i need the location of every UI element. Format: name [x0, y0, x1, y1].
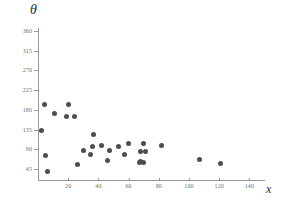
data-point: [42, 102, 47, 107]
data-point: [66, 102, 71, 107]
data-point: [45, 169, 50, 174]
y-tick-label: 180: [2, 107, 32, 113]
y-tick-label: 315: [2, 48, 32, 54]
scatter-plot-figure: θ x 4590135180225270315360 2040608010012…: [0, 0, 283, 206]
x-tick-mark: [129, 178, 130, 181]
x-tick-label: 100: [176, 183, 202, 189]
x-tick-mark: [98, 178, 99, 181]
data-point: [64, 114, 69, 119]
y-tick-label: 225: [2, 87, 32, 93]
y-tick-mark: [34, 90, 38, 91]
y-tick-label: 360: [2, 28, 32, 34]
data-point: [91, 132, 96, 137]
y-tick-mark: [34, 70, 38, 71]
x-tick-label: 80: [146, 183, 172, 189]
data-point: [141, 141, 146, 146]
data-point: [159, 143, 164, 148]
data-point: [90, 144, 95, 149]
y-tick-mark: [34, 31, 38, 32]
data-point: [107, 148, 112, 153]
x-tick-label: 140: [236, 183, 262, 189]
x-tick-label: 120: [206, 183, 232, 189]
x-tick-mark: [68, 178, 69, 181]
x-tick-label: 20: [55, 183, 81, 189]
x-tick-mark: [159, 178, 160, 181]
y-tick-mark: [34, 169, 38, 170]
data-point: [116, 144, 121, 149]
data-point: [75, 162, 80, 167]
y-tick-label: 45: [2, 166, 32, 172]
data-point: [105, 158, 110, 163]
data-point: [143, 149, 148, 154]
y-axis-title: θ: [30, 2, 37, 18]
data-point: [52, 111, 57, 116]
data-point: [39, 128, 44, 133]
x-axis-line: [38, 180, 265, 181]
x-tick-mark: [219, 178, 220, 181]
y-axis-line: [38, 28, 39, 180]
y-tick-mark: [34, 110, 38, 111]
data-point: [141, 160, 146, 165]
y-tick-label: 90: [2, 146, 32, 152]
data-point: [43, 153, 48, 158]
data-point: [218, 161, 223, 166]
data-point: [72, 114, 77, 119]
y-tick-mark: [34, 51, 38, 52]
data-point: [122, 152, 127, 157]
x-tick-label: 40: [85, 183, 111, 189]
y-tick-mark: [34, 149, 38, 150]
x-axis-title: x: [266, 182, 271, 197]
x-tick-mark: [189, 178, 190, 181]
x-tick-mark: [249, 178, 250, 181]
y-tick-mark: [34, 130, 38, 131]
data-point: [88, 152, 93, 157]
data-point: [197, 157, 202, 162]
data-point: [126, 141, 131, 146]
y-tick-label: 135: [2, 127, 32, 133]
y-tick-label: 270: [2, 67, 32, 73]
data-point: [81, 148, 86, 153]
data-point: [99, 143, 104, 148]
x-tick-label: 60: [116, 183, 142, 189]
